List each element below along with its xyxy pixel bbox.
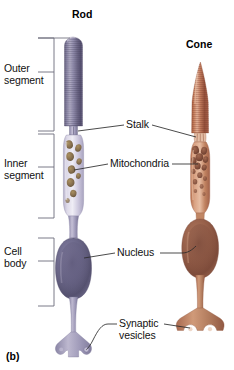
- label-nucleus: Nucleus: [117, 247, 154, 259]
- rod-synaptic-terminal: [55, 332, 91, 357]
- label-mitochondria: Mitochondria: [110, 158, 169, 170]
- cone-synaptic-terminal: [176, 308, 224, 331]
- rod-axon: [69, 297, 78, 334]
- rod-inner-segment: [63, 135, 83, 216]
- photoreceptor-illustration: [0, 0, 234, 370]
- panel-label: (b): [6, 350, 19, 362]
- cone-nucleus: [186, 224, 215, 272]
- label-stalk: Stalk: [126, 119, 149, 131]
- cone-outer-segment: [189, 60, 212, 136]
- label-outer-segment: Outer segment: [4, 63, 44, 86]
- rod-outer-segment: [63, 34, 84, 128]
- label-inner-segment: Inner segment: [4, 158, 44, 181]
- rod-title: Rod: [72, 8, 92, 20]
- photoreceptor-figure: Rod Cone Outer segment Inner segment Cel…: [0, 0, 234, 370]
- rod-cell: [55, 34, 91, 357]
- leader-stalk-cone: [152, 125, 196, 137]
- cone-inner-segment: [191, 142, 210, 213]
- label-synaptic-vesicles: Synaptic vesicles: [119, 318, 158, 341]
- leader-stalk-rod: [78, 125, 124, 131]
- cone-cell: [176, 60, 224, 331]
- cone-cell-body: [182, 219, 219, 278]
- rod-cell-body: [56, 238, 92, 299]
- cone-title: Cone: [186, 38, 212, 50]
- rod-stalk: [70, 126, 78, 135]
- cone-stalk: [194, 133, 206, 142]
- rod-neck: [68, 216, 78, 238]
- leader-lines: [38, 38, 198, 350]
- label-cell-body: Cell body: [4, 246, 26, 269]
- bracket-cell-body: [38, 238, 54, 306]
- rod-nucleus: [59, 242, 89, 294]
- cone-axon: [196, 275, 205, 310]
